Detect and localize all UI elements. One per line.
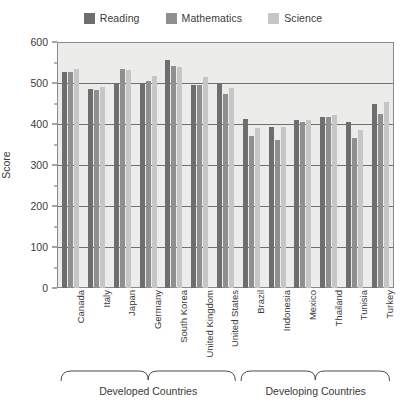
- category-brackets: Developed CountriesDeveloping Countries: [0, 368, 406, 412]
- y-tick-label: 0: [42, 282, 48, 294]
- bracket-developing-countries: Developing Countries: [240, 368, 391, 386]
- bar-science-japan: [126, 70, 131, 288]
- bar-reading-germany: [140, 84, 145, 288]
- bar-mathematics-turkey: [378, 114, 383, 288]
- bar-reading-indonesia: [269, 127, 274, 288]
- bar-group: [316, 43, 342, 288]
- x-label-cell: United Kingdom: [187, 290, 213, 362]
- bar-group: [238, 43, 264, 288]
- legend-swatch-science: [268, 13, 279, 24]
- legend-label: Science: [284, 12, 322, 24]
- bar-reading-south-korea: [165, 60, 170, 288]
- x-label-cell: Tunisia: [341, 290, 367, 362]
- bar-reading-japan: [114, 84, 119, 288]
- bar-reading-italy: [88, 89, 93, 288]
- bar-mathematics-mexico: [300, 122, 305, 288]
- x-label-cell: Indonesia: [264, 290, 290, 362]
- x-axis-labels: CanadaItalyJapanGermanySouth KoreaUnited…: [58, 290, 393, 362]
- bar-mathematics-italy: [94, 90, 99, 288]
- bar-science-thailand: [332, 115, 337, 288]
- legend-label: Mathematics: [182, 12, 243, 24]
- x-label-cell: Italy: [84, 290, 110, 362]
- bar-reading-turkey: [372, 104, 377, 288]
- chart-legend: ReadingMathematicsScience: [0, 12, 406, 24]
- bar-groups: [58, 43, 393, 288]
- bar-mathematics-indonesia: [275, 140, 280, 288]
- bar-reading-canada: [62, 72, 67, 288]
- bar-group: [367, 43, 393, 288]
- bar-mathematics-canada: [68, 72, 73, 288]
- y-tick-label: 200: [30, 200, 48, 212]
- bar-mathematics-germany: [146, 81, 151, 288]
- bar-mathematics-united-states: [223, 94, 228, 288]
- bar-group: [110, 43, 136, 288]
- bar-mathematics-tunisia: [352, 138, 357, 288]
- curly-brace-icon: [240, 368, 391, 382]
- curly-brace-icon: [60, 368, 236, 382]
- y-tick-label: 100: [30, 241, 48, 253]
- bar-group: [135, 43, 161, 288]
- bar-group: [290, 43, 316, 288]
- bar-mathematics-brazil: [249, 136, 254, 288]
- bar-reading-united-kingdom: [191, 85, 196, 288]
- y-tick-label: 600: [30, 36, 48, 48]
- bar-mathematics-united-kingdom: [197, 85, 202, 288]
- x-label-cell: Turkey: [367, 290, 393, 362]
- x-axis-label: Turkey: [384, 290, 395, 319]
- bar-group: [84, 43, 110, 288]
- bar-science-italy: [100, 87, 105, 288]
- bracket-caption: Developed Countries: [60, 385, 236, 397]
- bar-science-turkey: [384, 102, 389, 288]
- bar-science-germany: [152, 76, 157, 288]
- bar-mathematics-south-korea: [171, 66, 176, 288]
- bar-science-south-korea: [177, 67, 182, 288]
- bar-reading-mexico: [294, 120, 299, 288]
- bar-mathematics-japan: [120, 69, 125, 288]
- y-axis-title: Score: [0, 151, 12, 178]
- y-tick-label: 400: [30, 118, 48, 130]
- legend-item-reading: Reading: [84, 12, 140, 24]
- bar-group: [187, 43, 213, 288]
- bar-science-indonesia: [281, 127, 286, 288]
- x-label-cell: United States: [213, 290, 239, 362]
- bar-science-tunisia: [358, 130, 363, 288]
- bar-group: [213, 43, 239, 288]
- bracket-caption: Developing Countries: [240, 385, 391, 397]
- x-label-cell: South Korea: [161, 290, 187, 362]
- legend-item-mathematics: Mathematics: [166, 12, 243, 24]
- x-label-cell: Mexico: [290, 290, 316, 362]
- x-label-cell: Germany: [135, 290, 161, 362]
- bar-group: [58, 43, 84, 288]
- bar-reading-brazil: [243, 119, 248, 288]
- x-label-cell: Canada: [58, 290, 84, 362]
- bar-reading-united-states: [217, 83, 222, 288]
- legend-swatch-mathematics: [166, 13, 177, 24]
- bar-group: [264, 43, 290, 288]
- bar-group: [161, 43, 187, 288]
- y-tick-label: 300: [30, 159, 48, 171]
- bar-science-mexico: [306, 120, 311, 288]
- bar-science-canada: [74, 69, 79, 288]
- bracket-developed-countries: Developed Countries: [60, 368, 236, 386]
- x-label-cell: Thailand: [316, 290, 342, 362]
- bar-reading-thailand: [320, 117, 325, 288]
- bar-science-united-states: [229, 88, 234, 288]
- y-tick-label: 500: [30, 77, 48, 89]
- y-axis: Score 0100200300400500600: [0, 42, 57, 288]
- legend-swatch-reading: [84, 13, 95, 24]
- x-label-cell: Brazil: [238, 290, 264, 362]
- legend-label: Reading: [100, 12, 140, 24]
- x-label-cell: Japan: [110, 290, 136, 362]
- legend-item-science: Science: [268, 12, 322, 24]
- bar-mathematics-thailand: [326, 117, 331, 288]
- bar-reading-tunisia: [346, 122, 351, 288]
- bar-science-united-kingdom: [203, 77, 208, 288]
- bar-group: [341, 43, 367, 288]
- bar-science-brazil: [255, 128, 260, 288]
